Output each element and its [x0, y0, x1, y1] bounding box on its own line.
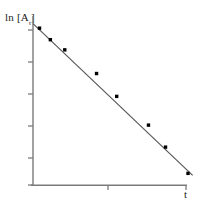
data-point	[147, 123, 150, 126]
data-point	[63, 48, 66, 51]
data-point	[38, 26, 41, 29]
axis-lines	[31, 16, 187, 186]
kinetics-plot-figure: ln [At] t	[0, 0, 198, 204]
data-point	[95, 72, 98, 75]
linear-fit-line	[33, 24, 193, 176]
y-axis-ticks	[28, 30, 33, 185]
data-point	[115, 95, 118, 98]
data-point	[164, 145, 167, 148]
data-point	[49, 38, 52, 41]
data-point	[186, 172, 189, 175]
plot-canvas	[0, 0, 198, 204]
